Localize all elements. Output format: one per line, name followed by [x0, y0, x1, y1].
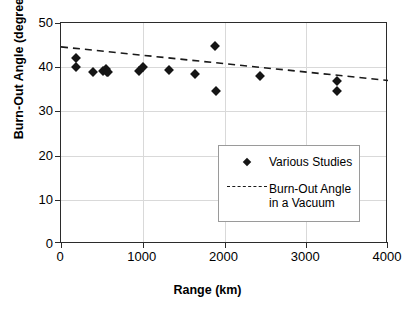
x-tick-label-2000: 2000	[209, 249, 238, 264]
y-tick-label-10: 10	[39, 191, 53, 206]
legend-diamond-marker-icon	[225, 155, 269, 165]
y-tick-label-20: 20	[39, 147, 53, 162]
data-point	[71, 62, 81, 72]
y-tick-label-40: 40	[39, 59, 53, 74]
y-tick-label-30: 30	[39, 103, 53, 118]
legend-item-various-studies: Various Studies	[219, 152, 359, 172]
y-tick-label-50: 50	[39, 15, 53, 30]
x-tick-label-4000: 4000	[373, 249, 402, 264]
data-point	[190, 69, 200, 79]
legend-item-burn-out-angle-vacuum: Burn-Out Angle in a Vacuum	[219, 172, 359, 213]
data-point	[256, 71, 266, 81]
data-point	[332, 86, 342, 96]
data-point	[88, 67, 98, 77]
x-tick-label-3000: 3000	[291, 249, 320, 264]
y-tick-label-0: 0	[46, 236, 53, 251]
y-axis-title: Burn-Out Angle (degrees)	[12, 0, 26, 168]
x-axis-title: Range (km)	[0, 283, 415, 297]
legend-label-vacuum-line2: in a Vacuum	[269, 196, 351, 210]
chart-container: 50 40 30 20 10 0 0 1000 2000 3000 4000 R…	[0, 0, 415, 314]
data-point	[210, 41, 220, 51]
y-axis-tick-labels: 50 40 30 20 10 0	[0, 0, 53, 314]
data-point	[332, 76, 342, 86]
chart-legend: Various Studies Burn-Out Angle in a Vacu…	[218, 145, 360, 222]
legend-dashed-line-icon	[225, 182, 269, 187]
data-point	[164, 65, 174, 75]
x-tick-label-0: 0	[56, 249, 63, 264]
legend-label-various-studies: Various Studies	[269, 155, 352, 169]
legend-label-vacuum-line1: Burn-Out Angle	[269, 182, 351, 196]
data-point	[211, 86, 221, 96]
x-tick-label-1000: 1000	[127, 249, 156, 264]
